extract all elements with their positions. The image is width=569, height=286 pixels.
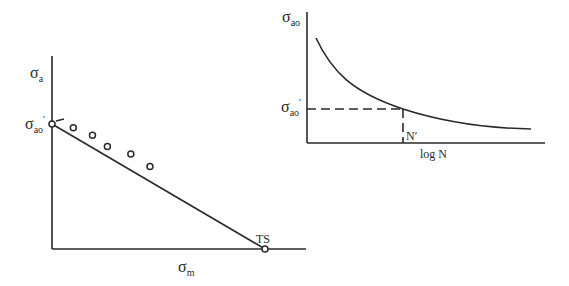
right-y-axis-label: σao (282, 8, 300, 28)
sn-curve (316, 38, 531, 129)
goodman-line (52, 124, 265, 249)
data-point (147, 164, 153, 170)
data-point (89, 132, 95, 138)
marker-y-label: σao' (281, 97, 301, 118)
marker-x-label: N′ (406, 129, 418, 143)
intercept-label: σao' (25, 114, 45, 135)
left-diagram: σa σao' TS σm (25, 56, 306, 278)
diagram-canvas: σa σao' TS σm σao σao' N′ log N (0, 0, 569, 286)
ts-point (262, 246, 268, 252)
data-points (70, 125, 153, 170)
left-x-axis-label: σm (178, 258, 195, 278)
ts-label: TS (256, 232, 270, 246)
intercept-tick (56, 119, 64, 121)
right-x-axis-label: log N (420, 147, 447, 161)
data-point (104, 144, 110, 150)
right-diagram: σao σao' N′ log N (281, 8, 545, 161)
data-point (128, 151, 134, 157)
data-point (70, 125, 76, 131)
intercept-point (49, 121, 55, 127)
left-y-axis-label: σa (30, 64, 44, 84)
